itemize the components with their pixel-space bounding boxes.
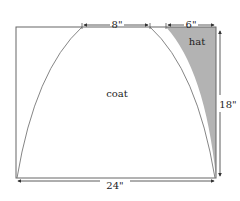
coat-label: coat xyxy=(106,88,128,99)
dimension-top-width: 8" xyxy=(82,19,150,30)
dimension-height: 18" xyxy=(219,31,236,176)
coat-hat-diagram: 8" 6" 18" 24" coat hat xyxy=(0,0,240,201)
dimension-label-8: 8" xyxy=(112,19,123,30)
dimension-label-18: 18" xyxy=(219,99,236,110)
hat-label: hat xyxy=(189,36,205,47)
dimension-label-6: 6" xyxy=(186,19,197,30)
dimension-bottom-width: 24" xyxy=(18,180,214,191)
hat-region xyxy=(166,27,216,178)
dimension-label-24: 24" xyxy=(106,180,123,191)
coat-left-curve xyxy=(17,27,82,178)
